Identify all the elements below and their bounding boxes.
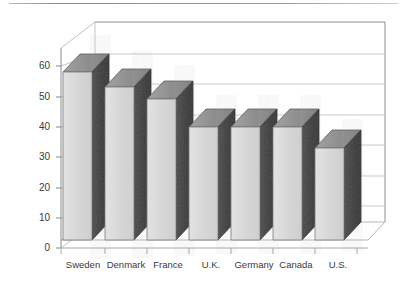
bar-chart-canvas	[0, 0, 407, 299]
y-axis-ticks	[56, 66, 61, 248]
x-category-label-france: France	[153, 259, 183, 270]
bar-uk[interactable]	[189, 109, 235, 240]
bar-germany[interactable]	[231, 109, 277, 240]
y-tick-label-40: 40	[26, 121, 50, 132]
x-category-label-denmark: Denmark	[107, 259, 146, 270]
y-tick-label-0: 0	[26, 242, 50, 253]
x-category-label-germany: Germany	[234, 259, 273, 270]
y-tick-label-60: 60	[26, 60, 50, 71]
bar-france[interactable]	[147, 81, 193, 240]
y-tick-label-30: 30	[26, 151, 50, 162]
chart-figure: 60 50 40 30 20 10 0 Sweden Denmark Franc…	[0, 0, 407, 299]
y-tick-label-10: 10	[26, 212, 50, 223]
y-tick-label-20: 20	[26, 182, 50, 193]
x-category-label-sweden: Sweden	[66, 259, 100, 270]
bar-us[interactable]	[315, 130, 361, 240]
x-category-label-uk: U.K.	[202, 259, 220, 270]
y-tick-label-50: 50	[26, 91, 50, 102]
bar-sweden[interactable]	[63, 54, 109, 240]
x-category-label-canada: Canada	[279, 259, 312, 270]
bar-canada[interactable]	[273, 109, 319, 240]
x-category-label-us: U.S.	[329, 259, 347, 270]
bar-denmark[interactable]	[105, 69, 151, 240]
x-axis	[61, 248, 368, 254]
